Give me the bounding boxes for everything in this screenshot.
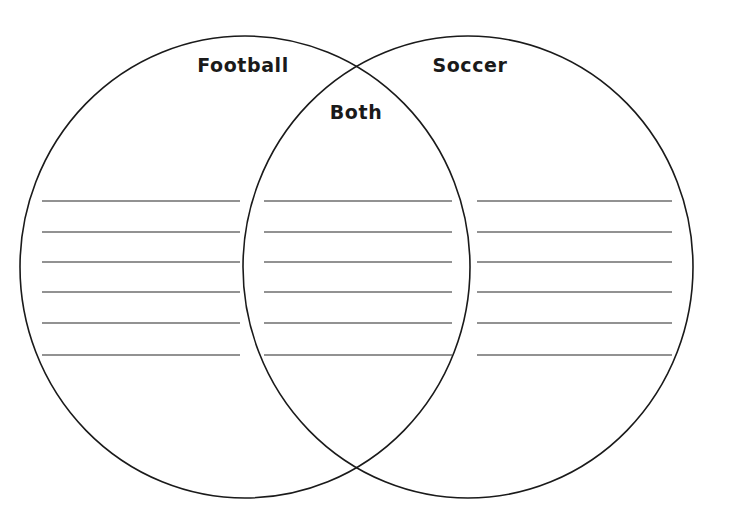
writing-lines-both: [264, 201, 452, 355]
venn-circle-soccer[interactable]: [243, 36, 693, 498]
writing-lines-football: [42, 201, 240, 355]
venn-label-soccer: Soccer: [432, 54, 507, 76]
venn-diagram-canvas: [0, 0, 729, 524]
venn-circle-football[interactable]: [20, 36, 470, 498]
venn-diagram-worksheet: Football Soccer Both: [0, 0, 729, 524]
venn-label-both: Both: [330, 101, 383, 123]
writing-lines-soccer: [477, 201, 672, 355]
venn-label-football: Football: [197, 54, 289, 76]
